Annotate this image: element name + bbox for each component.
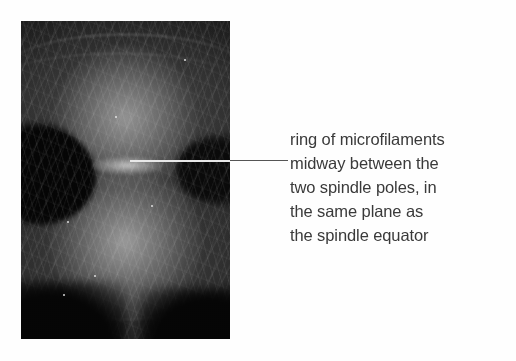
film-grain-layer	[21, 21, 230, 339]
leader-line-outside-image	[230, 160, 288, 161]
caption-line-1: ring of microfilaments	[290, 127, 508, 151]
micrograph-image	[21, 21, 230, 339]
leader-line-inside-image	[130, 160, 230, 162]
caption-line-2: midway between the	[290, 151, 508, 175]
figure-panel: ring of microfilaments midway between th…	[0, 0, 516, 361]
caption-text: ring of microfilaments midway between th…	[290, 127, 508, 247]
caption-line-5: the spindle equator	[290, 223, 508, 247]
leader-line	[130, 160, 288, 162]
caption-line-4: the same plane as	[290, 199, 508, 223]
caption-line-3: two spindle poles, in	[290, 175, 508, 199]
